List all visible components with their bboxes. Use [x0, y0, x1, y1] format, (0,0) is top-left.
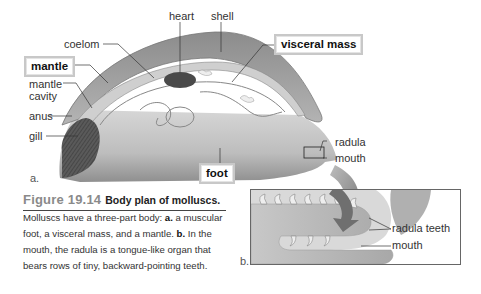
label-shell: shell: [211, 10, 234, 22]
figure-number: Figure 19.14: [23, 192, 101, 207]
figure-heading: Figure 19.14Body plan of molluscs.: [23, 190, 226, 211]
label-heart: heart: [169, 10, 194, 22]
label-radula: radula: [335, 136, 366, 148]
caption-marker-b: b.: [177, 228, 186, 239]
label-mantle: mantle: [24, 56, 75, 77]
label-anus: anus: [29, 110, 53, 122]
panel-a-marker: a.: [30, 172, 39, 184]
figure-caption: Molluscs have a three-part body: a. a mu…: [23, 210, 228, 274]
label-gill: gill: [29, 130, 42, 142]
label-foot: foot: [199, 163, 235, 184]
label-mantle-cavity-2: cavity: [29, 90, 57, 102]
label-mouth-a: mouth: [335, 152, 366, 164]
caption-marker-a: a.: [165, 212, 173, 223]
panel-b-marker: b.: [240, 255, 249, 267]
figure-title: Body plan of molluscs.: [105, 194, 220, 206]
label-visceral-mass: visceral mass: [274, 34, 363, 55]
label-coelom: coelom: [64, 38, 99, 50]
caption-intro: Molluscs have a three-part body:: [23, 212, 165, 223]
label-mouth-b: mouth: [392, 239, 423, 251]
label-mantle-cavity-1: mantle: [29, 78, 62, 90]
label-radula-teeth: radula teeth: [392, 222, 450, 234]
